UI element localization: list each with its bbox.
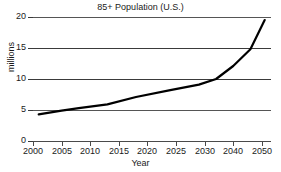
chart-title: 85+ Population (U.S.) <box>0 2 281 13</box>
data-series-line <box>33 17 271 141</box>
y-tick-label: 15 <box>4 43 26 52</box>
y-tick-label: 0 <box>4 136 26 145</box>
y-tick-label: 20 <box>4 12 26 21</box>
x-axis-line <box>33 141 271 142</box>
x-tick-label: 2050 <box>245 146 279 156</box>
plot-area <box>33 17 271 141</box>
chart-container: 85+ Population (U.S.) millions 05101520 … <box>0 0 281 172</box>
y-tick-label: 5 <box>4 105 26 114</box>
y-tick-label: 10 <box>4 74 26 83</box>
x-axis-title: Year <box>0 158 281 169</box>
